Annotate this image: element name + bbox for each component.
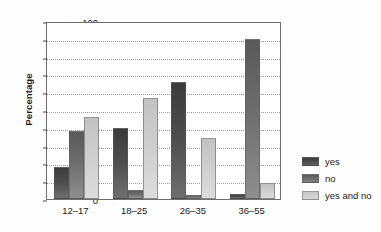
bar <box>245 39 260 199</box>
legend-label: yes and no <box>325 190 371 201</box>
y-tick-mark <box>43 129 47 130</box>
legend-swatch-icon <box>302 174 319 183</box>
bar <box>201 138 216 199</box>
x-tick-label: 36–55 <box>238 205 264 216</box>
bar <box>69 131 84 199</box>
bar <box>54 167 69 199</box>
bar-group <box>106 23 165 199</box>
legend-item: yes and no <box>302 190 371 201</box>
y-tick-mark <box>43 183 47 184</box>
legend-label: no <box>325 173 336 184</box>
bar <box>84 117 99 199</box>
bar <box>186 195 201 199</box>
y-tick-mark <box>43 147 47 148</box>
y-tick-mark <box>43 40 47 41</box>
bar <box>171 82 186 199</box>
y-tick-mark <box>43 112 47 113</box>
bar <box>143 98 158 199</box>
legend-item: no <box>302 173 371 184</box>
bar <box>260 183 275 199</box>
y-tick-mark <box>43 23 47 24</box>
x-tick-label: 26–35 <box>180 205 206 216</box>
bar-group <box>223 23 282 199</box>
bar <box>113 128 128 199</box>
y-tick-mark <box>43 165 47 166</box>
y-tick-mark <box>43 201 47 202</box>
legend-item: yes <box>302 156 371 167</box>
bar <box>128 190 143 199</box>
bar <box>230 194 245 199</box>
legend-swatch-icon <box>302 157 319 166</box>
y-tick-mark <box>43 58 47 59</box>
x-tick-label: 18–25 <box>121 205 147 216</box>
plot-area <box>46 22 281 200</box>
y-axis-title: Percentage <box>23 45 34 155</box>
y-tick-mark <box>43 94 47 95</box>
chart-root: Percentage 0102030405060708090100 12–171… <box>0 0 381 232</box>
bar-group <box>165 23 224 199</box>
legend-swatch-icon <box>302 191 319 200</box>
bar-group <box>47 23 106 199</box>
y-tick-mark <box>43 76 47 77</box>
chart-legend: yesnoyes and no <box>302 156 371 201</box>
x-tick-label: 12–17 <box>62 205 88 216</box>
legend-label: yes <box>325 156 340 167</box>
